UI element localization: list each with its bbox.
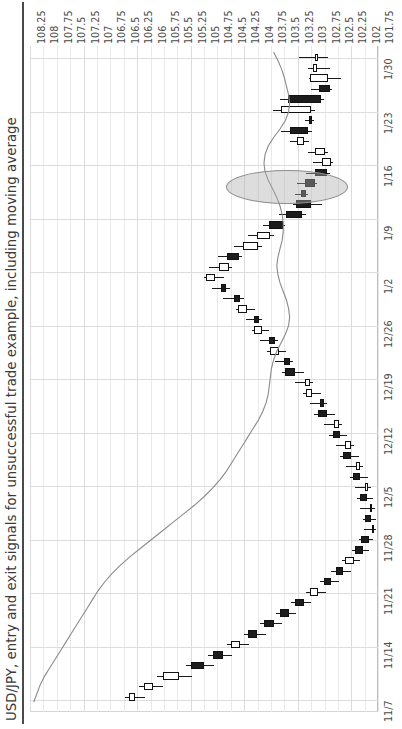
price-tick-label: 102.5 [343, 0, 357, 44]
price-tick-label: 103.5 [289, 0, 303, 44]
price-tick-label: 103.75 [276, 0, 290, 44]
price-tick-label: 106.5 [129, 0, 143, 44]
price-tick-label: 104 [263, 0, 277, 44]
price-tick-label: 107.5 [75, 0, 89, 44]
date-tick-label: 1/2 [382, 250, 396, 294]
date-tick-label: 11/28 [382, 518, 396, 562]
signal-ellipse-annotation [226, 170, 348, 204]
date-tick-label: 11/21 [382, 571, 396, 615]
date-tick-label: 1/23 [382, 90, 396, 134]
price-tick-label: 104.75 [222, 0, 236, 44]
price-tick-label: 106.25 [142, 0, 156, 44]
price-tick-label: 103.25 [303, 0, 317, 44]
price-gridline [378, 46, 379, 712]
date-tick-label: 12/12 [382, 411, 396, 455]
date-tick-label: 11/14 [382, 625, 396, 669]
price-tick-label: 105.25 [196, 0, 210, 44]
date-tick-label: 12/5 [382, 464, 396, 508]
price-tick-label: 105 [209, 0, 223, 44]
date-tick-label: 12/26 [382, 304, 396, 348]
price-tick-label: 105.5 [182, 0, 196, 44]
price-tick-label: 104.5 [236, 0, 250, 44]
price-tick-label: 105.75 [169, 0, 183, 44]
date-tick-label: 1/30 [382, 36, 396, 80]
price-tick-label: 104.25 [249, 0, 263, 44]
price-tick-label: 108.25 [35, 0, 49, 44]
price-tick-label: 102.25 [356, 0, 370, 44]
price-tick-label: 108 [48, 0, 62, 44]
price-tick-label: 107.25 [89, 0, 103, 44]
price-tick-label: 107.75 [62, 0, 76, 44]
date-tick-label: 1/9 [382, 197, 396, 241]
date-tick-label: 11/7 [382, 678, 396, 722]
price-tick-label: 106 [156, 0, 170, 44]
price-tick-label: 107 [102, 0, 116, 44]
moving-average-line [30, 46, 378, 712]
date-tick-label: 1/16 [382, 143, 396, 187]
price-tick-label: 106.75 [115, 0, 129, 44]
price-tick-label: 102.75 [330, 0, 344, 44]
price-tick-label: 103 [316, 0, 330, 44]
date-tick-label: 12/19 [382, 357, 396, 401]
